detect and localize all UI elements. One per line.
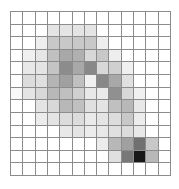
heatmap-cell <box>133 11 145 24</box>
heatmap-cell <box>72 36 84 49</box>
heatmap-cell <box>133 24 145 37</box>
heatmap-cell <box>145 87 157 100</box>
heatmap-cell <box>59 87 71 100</box>
heatmap-cell <box>35 87 47 100</box>
heatmap-cell <box>72 150 84 163</box>
heatmap-cell <box>47 125 59 138</box>
heatmap-cell <box>72 11 84 24</box>
heatmap-cell <box>158 11 170 24</box>
heatmap-cell <box>158 99 170 112</box>
heatmap-cell <box>145 125 157 138</box>
heatmap-cell <box>10 61 22 74</box>
heatmap-cell <box>145 49 157 62</box>
heatmap-cell <box>121 125 133 138</box>
heatmap-cell <box>59 36 71 49</box>
heatmap-cell <box>59 150 71 163</box>
heatmap-cell <box>47 150 59 163</box>
heatmap-cell <box>22 87 34 100</box>
heatmap-cell <box>59 112 71 125</box>
heatmap-cell <box>108 61 120 74</box>
heatmap-cell <box>158 112 170 125</box>
heatmap-cell <box>96 87 108 100</box>
heatmap-cell <box>84 150 96 163</box>
heatmap-cell <box>133 61 145 74</box>
heatmap-cell <box>145 61 157 74</box>
heatmap-cell <box>133 150 145 163</box>
heatmap-cell <box>10 74 22 87</box>
heatmap-cell <box>145 36 157 49</box>
heatmap-cell <box>47 11 59 24</box>
heatmap-cell <box>84 137 96 150</box>
heatmap-cell <box>59 74 71 87</box>
heatmap-cell <box>96 74 108 87</box>
heatmap-cell <box>158 36 170 49</box>
heatmap-cell <box>145 99 157 112</box>
heatmap-cell <box>121 24 133 37</box>
heatmap-cell <box>84 11 96 24</box>
heatmap-cell <box>35 99 47 112</box>
heatmap-cell <box>96 49 108 62</box>
heatmap-cell <box>145 162 157 175</box>
heatmap-cell <box>145 137 157 150</box>
heatmap-cell <box>10 87 22 100</box>
heatmap-cell <box>108 99 120 112</box>
heatmap-cell <box>121 11 133 24</box>
heatmap-cell <box>22 36 34 49</box>
heatmap-cell <box>145 24 157 37</box>
heatmap-cell <box>72 99 84 112</box>
heatmap-cell <box>108 11 120 24</box>
heatmap-cell <box>133 36 145 49</box>
heatmap-cell <box>22 11 34 24</box>
heatmap-cell <box>47 36 59 49</box>
heatmap-cell <box>22 61 34 74</box>
heatmap-cell <box>35 61 47 74</box>
heatmap-cell <box>158 87 170 100</box>
heatmap-cell <box>59 24 71 37</box>
heatmap-cell <box>35 162 47 175</box>
heatmap-cell <box>121 150 133 163</box>
heatmap-cell <box>158 150 170 163</box>
heatmap-cell <box>121 49 133 62</box>
heatmap-cell <box>145 11 157 24</box>
heatmap-cell <box>22 162 34 175</box>
heatmap-cell <box>59 99 71 112</box>
heatmap-cell <box>35 36 47 49</box>
heatmap-cell <box>133 99 145 112</box>
heatmap-cell <box>121 137 133 150</box>
heatmap-cell <box>158 61 170 74</box>
heatmap-cell <box>72 125 84 138</box>
heatmap-cell <box>145 112 157 125</box>
heatmap-cell <box>22 125 34 138</box>
heatmap-cell <box>84 99 96 112</box>
heatmap-cell <box>72 74 84 87</box>
heatmap-cell <box>145 150 157 163</box>
heatmap-cell <box>121 99 133 112</box>
heatmap-cell <box>108 137 120 150</box>
heatmap-cell <box>22 112 34 125</box>
heatmap-cell <box>133 87 145 100</box>
heatmap-cell <box>35 150 47 163</box>
heatmap-cell <box>121 61 133 74</box>
heatmap-cell <box>96 112 108 125</box>
heatmap-cell <box>47 24 59 37</box>
heatmap-cell <box>145 74 157 87</box>
heatmap-cell <box>72 112 84 125</box>
heatmap-cell <box>22 137 34 150</box>
heatmap-cell <box>35 49 47 62</box>
heatmap-cell <box>133 74 145 87</box>
heatmap-cell <box>10 162 22 175</box>
heatmap-cell <box>72 49 84 62</box>
heatmap-cell <box>96 137 108 150</box>
heatmap-cell <box>22 49 34 62</box>
heatmap-cell <box>72 162 84 175</box>
heatmap-cell <box>35 24 47 37</box>
heatmap-cell <box>121 112 133 125</box>
heatmap-cell <box>72 87 84 100</box>
heatmap-cell <box>96 162 108 175</box>
heatmap-cell <box>84 162 96 175</box>
heatmap-cell <box>22 74 34 87</box>
heatmap-cell <box>35 11 47 24</box>
heatmap-cell <box>96 36 108 49</box>
heatmap-cell <box>10 99 22 112</box>
heatmap-cell <box>96 24 108 37</box>
